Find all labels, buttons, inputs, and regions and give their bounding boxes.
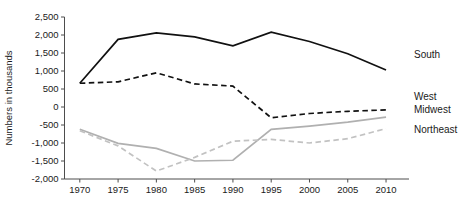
series-label-midwest: Midwest [414,104,451,115]
x-tick-label: 2005 [337,184,358,195]
y-tick-label: -500 [39,119,58,130]
x-tick-label: 1990 [222,184,243,195]
y-tick-label: 1,500 [35,47,59,58]
y-tick-label: 1,000 [35,65,59,76]
y-tick-label: 500 [43,83,59,94]
x-tick-label: 2000 [299,184,320,195]
x-tick-label: 1995 [261,184,282,195]
x-tick-label: 1985 [184,184,205,195]
series-line-west [80,73,386,118]
y-tick-label: -1,500 [32,155,59,166]
y-tick-label: 2,000 [35,29,59,40]
y-tick-label: 2,500 [35,11,59,22]
series-label-northeast: Northeast [414,124,458,135]
series-line-northeast [80,129,386,171]
x-tick-label: 2010 [375,184,396,195]
y-tick-label: -2,000 [32,173,59,184]
chart-figure: 2,5002,0001,5001,0005000-500-1,000-1,500… [0,0,469,208]
x-tick-label: 1970 [69,184,90,195]
y-tick-label: -1,000 [32,137,59,148]
series-line-midwest [80,117,386,161]
y-axis-title: Numbers in thousands [3,50,14,145]
series-label-west: West [414,91,437,102]
x-tick-label: 1975 [108,184,129,195]
series-label-south: South [414,49,440,60]
y-tick-label: 0 [53,101,58,112]
line-chart: 2,5002,0001,5001,0005000-500-1,000-1,500… [0,0,469,208]
series-line-south [80,32,386,83]
x-tick-label: 1980 [146,184,167,195]
